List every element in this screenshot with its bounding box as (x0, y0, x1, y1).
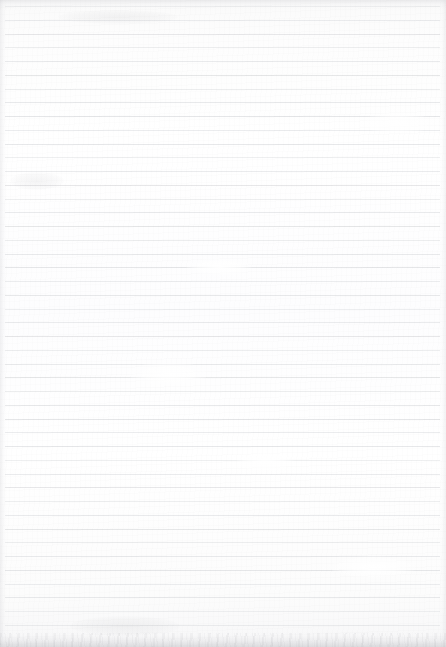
paper-sheet (0, 0, 446, 647)
page-content-area (0, 0, 446, 647)
